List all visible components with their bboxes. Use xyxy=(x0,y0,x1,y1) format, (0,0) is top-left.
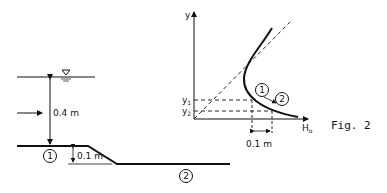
channel-profile: 0.4 m 0.1 m 1 2 xyxy=(17,70,230,183)
specific-energy-curve xyxy=(244,28,298,117)
y-axis-label: y xyxy=(185,10,191,20)
y1-label: y1 xyxy=(182,95,191,106)
free-surface-icon xyxy=(61,70,71,81)
y2-label: y2 xyxy=(182,106,191,117)
svg-text:1: 1 xyxy=(47,151,53,161)
dh-label: 0.1 m xyxy=(246,139,272,149)
svg-text:2: 2 xyxy=(183,171,189,181)
step-label: 0.1 m xyxy=(77,151,103,161)
svg-text:2: 2 xyxy=(279,94,285,104)
figure-label: Fig. 2 xyxy=(331,119,371,132)
svg-text:1: 1 xyxy=(259,85,265,95)
specific-energy-diagram: y Ho 0.1 m y1 y2 1 2 xyxy=(182,10,313,149)
transition-arrow xyxy=(264,97,276,103)
depth-label: 0.4 m xyxy=(53,108,79,118)
h-axis-label: Ho xyxy=(302,123,313,134)
critical-depth-line xyxy=(194,22,290,119)
figure-canvas: 0.4 m 0.1 m 1 2 y Ho 0.1 m y1 y2 1 2 Fig… xyxy=(0,0,387,193)
